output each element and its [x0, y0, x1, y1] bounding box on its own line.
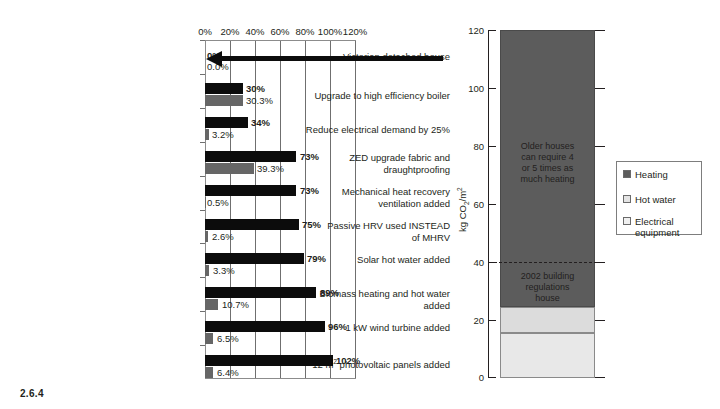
bar-value-primary-1: 30%	[246, 83, 265, 94]
regs-note-line2: regulations	[501, 282, 594, 293]
xtick-label-80: 80%	[295, 26, 314, 37]
bar-primary-3	[205, 151, 296, 162]
bar-value-primary-4: 73%	[300, 185, 319, 196]
co2-stacked-bar-chart: 120 100 80 60 40 20 0 kg CO2/m2 Older ho…	[450, 0, 720, 390]
ytick-mark-100	[488, 88, 496, 89]
bar-secondary-3	[205, 163, 254, 174]
bar-primary-6	[205, 253, 304, 264]
ytick-mark-right-20	[595, 320, 605, 321]
bar-value-secondary-2: 3.2%	[212, 129, 234, 140]
ytick-mark-0	[488, 377, 496, 378]
y-axis-title: kg CO2/m2	[456, 187, 470, 232]
legend-swatch-electrical-equipment-icon	[623, 217, 631, 225]
top-axis-line	[205, 40, 356, 41]
legend-swatch-hot-water-icon	[623, 195, 631, 203]
ytick-mark-0	[200, 40, 205, 41]
ytick-mark-60	[488, 204, 496, 205]
bar-value-primary-3: 73%	[300, 151, 319, 162]
ytick-label-20: 20	[458, 315, 484, 326]
ytick-mark-2	[200, 108, 205, 109]
bar-secondary-6	[205, 265, 209, 276]
older-houses-note: Older houses can require 4 or 5 times as…	[501, 141, 594, 185]
bar-primary-1	[205, 83, 243, 94]
bar-primary-2	[205, 117, 248, 128]
ytick-mark-3	[200, 142, 205, 143]
xtick-label-20: 20%	[220, 26, 239, 37]
older-houses-note-line3: or 5 times as	[501, 163, 594, 174]
category-label-8-line1: 1 kW wind turbine added	[345, 322, 450, 333]
ytick-mark-right-120	[595, 30, 605, 31]
bar-value-secondary-7: 10.7%	[222, 299, 249, 310]
legend-label-electrical-line2: equipment	[635, 227, 679, 238]
bar-value-secondary-4: 0.5%	[207, 197, 229, 208]
older-houses-note-line2: can require 4	[501, 152, 594, 163]
bar-secondary-2	[205, 129, 209, 140]
ytick-mark-6	[200, 243, 205, 244]
bar-value-secondary-3: 39.3%	[257, 163, 284, 174]
energy-reduction-bar-chart: 0% 20% 40% 60% 80% 100% 120% Victorian d…	[0, 0, 450, 390]
legend-label-electrical-equipment: Electrical equipment	[635, 216, 679, 238]
legend-item-heating[interactable]: Heating	[623, 169, 668, 180]
ytick-mark-8	[200, 311, 205, 312]
legend-swatch-heating-icon	[623, 170, 631, 178]
category-label-7-line2: added	[258, 300, 450, 312]
bar-value-secondary-1: 30.3%	[246, 95, 273, 106]
legend-item-hot-water[interactable]: Hot water	[623, 194, 676, 205]
figure-caption: 2.6.4	[20, 388, 44, 399]
ytick-mark-120	[488, 30, 496, 31]
xtick-label-100: 100%	[318, 26, 342, 37]
bottom-axis-line	[205, 378, 356, 379]
ytick-mark-80	[488, 146, 496, 147]
xtick-label-40: 40%	[245, 26, 264, 37]
category-label-3-line2: draughtproofing	[258, 164, 450, 176]
bar-value-secondary-8: 6.5%	[217, 333, 239, 344]
ytick-mark-20	[488, 320, 496, 321]
category-label-1-line1: Upgrade to high efficiency boiler	[314, 90, 450, 101]
regs-note: 2002 building regulations house	[501, 271, 594, 304]
bar-value-secondary-5: 2.6%	[212, 231, 234, 242]
bar-primary-4	[205, 185, 296, 196]
regs-note-line1: 2002 building	[501, 271, 594, 282]
bar-secondary-5	[205, 231, 208, 242]
legend-label-hot-water: Hot water	[635, 194, 676, 205]
legend-item-electrical-equipment[interactable]: Electrical equipment	[623, 216, 679, 238]
ytick-mark-right-0	[595, 377, 605, 378]
bar-secondary-1	[205, 95, 243, 106]
xtick-label-120: 120%	[343, 26, 367, 37]
stack-segment-hot-water	[500, 307, 595, 333]
older-houses-note-line1: Older houses	[501, 141, 594, 152]
bar-value-primary-5: 75%	[302, 219, 321, 230]
regs-reference-dashed-line	[494, 262, 602, 263]
ytick-mark-1	[200, 74, 205, 75]
ytick-label-120: 120	[458, 25, 484, 36]
older-houses-note-line4: much heating	[501, 174, 594, 185]
bar-value-primary-8: 96%	[328, 321, 347, 332]
bar-value-secondary-6: 3.3%	[213, 265, 235, 276]
ytick-mark-7	[200, 277, 205, 278]
stack-segment-electrical-equipment	[500, 333, 595, 378]
ytick-label-100: 100	[458, 83, 484, 94]
bar-value-primary-9: 102%	[336, 355, 360, 366]
category-label-1: Upgrade to high efficiency boiler	[258, 90, 450, 102]
annotation-arrow-head	[206, 51, 222, 67]
annotation-arrow-shaft	[218, 56, 443, 61]
bar-secondary-8	[205, 333, 213, 344]
ytick-mark-right-80	[595, 146, 605, 147]
bar-value-secondary-9: 6.4%	[217, 367, 239, 378]
category-label-2-line1: Reduce electrical demand by 25%	[306, 124, 450, 135]
regs-note-line3: house	[501, 293, 594, 304]
legend-label-heating: Heating	[635, 169, 668, 180]
ytick-mark-4	[200, 176, 205, 177]
ytick-label-40: 40	[458, 257, 484, 268]
bar-secondary-9	[205, 367, 213, 378]
figure-root: 0% 20% 40% 60% 80% 100% 120% Victorian d…	[0, 0, 720, 409]
bar-secondary-4	[205, 197, 206, 208]
legend-label-electrical-line1: Electrical	[635, 216, 679, 227]
bar-primary-9	[205, 355, 333, 366]
stack-segment-heating: Older houses can require 4 or 5 times as…	[500, 30, 595, 307]
ytick-label-80: 80	[458, 141, 484, 152]
category-label-4-line2: ventilation added	[258, 198, 450, 210]
bar-value-primary-7: 89%	[320, 287, 339, 298]
category-label-2: Reduce electrical demand by 25%	[258, 124, 450, 136]
bar-primary-7	[205, 287, 316, 298]
